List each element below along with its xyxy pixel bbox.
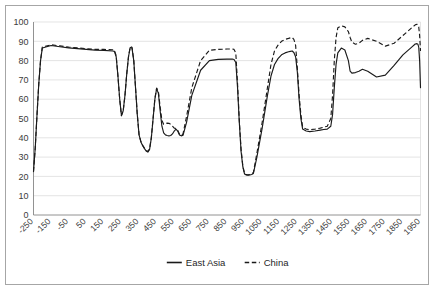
x-tick-label: 250 <box>106 216 123 233</box>
x-tick-label: 1550 <box>331 216 352 237</box>
x-tick-label: 1250 <box>278 216 299 237</box>
x-tick-label: 1050 <box>243 216 264 237</box>
x-tick-label: 1450 <box>314 216 335 237</box>
x-tick-label: 850 <box>211 216 228 233</box>
series-line-east-asia <box>34 44 421 176</box>
x-tick-label: 550 <box>159 216 176 233</box>
x-tick-label: -50 <box>54 216 70 232</box>
y-tick-label: 100 <box>13 17 28 27</box>
x-tick-label: 1850 <box>384 216 405 237</box>
x-tick-label: 1150 <box>261 216 281 236</box>
x-tick-label: 1350 <box>296 216 317 237</box>
legend-label-china: China <box>264 257 290 268</box>
y-tick-label: 90 <box>18 37 28 47</box>
x-tick-label: 1750 <box>366 216 387 237</box>
x-tick-label: 1950 <box>401 216 422 237</box>
y-tick-label: 30 <box>18 152 28 162</box>
x-tick-label: -150 <box>33 216 52 235</box>
x-tick-label: 450 <box>141 216 158 233</box>
x-tick-label: 650 <box>176 216 193 233</box>
line-chart: 0102030405060708090100-250-150-505015025… <box>0 0 435 291</box>
y-tick-label: 40 <box>18 133 28 143</box>
legend-label-east-asia: East Asia <box>186 257 226 268</box>
y-tick-label: 70 <box>18 75 28 85</box>
x-tick-label: 350 <box>123 216 140 233</box>
x-tick-label: 1650 <box>349 216 370 237</box>
y-tick-label: 20 <box>18 172 28 182</box>
y-tick-label: 10 <box>18 191 28 201</box>
y-tick-label: 50 <box>18 114 28 124</box>
series-line-china <box>34 24 421 175</box>
x-tick-label: -250 <box>16 216 35 235</box>
y-tick-label: 60 <box>18 94 28 104</box>
y-tick-label: 80 <box>18 56 28 66</box>
x-tick-label: 50 <box>74 216 88 230</box>
chart-container: 0102030405060708090100-250-150-505015025… <box>0 0 435 291</box>
x-tick-label: 750 <box>194 216 211 233</box>
x-tick-label: 150 <box>88 216 105 233</box>
